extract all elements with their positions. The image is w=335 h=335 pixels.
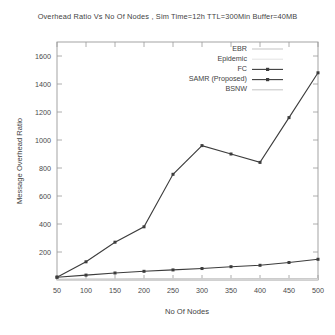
chart-figure: Overhead Ratio Vs No Of Nodes , Sim Time… — [0, 0, 335, 335]
series-marker — [172, 268, 175, 271]
series-marker — [288, 261, 291, 264]
series-marker — [317, 258, 320, 261]
x-tick-label: 400 — [254, 286, 266, 295]
y-tick-label: 1600 — [35, 52, 51, 61]
legend-sample-marker — [266, 78, 269, 81]
x-tick-label: 100 — [80, 286, 92, 295]
x-tick-label: 150 — [109, 286, 121, 295]
legend-label: Epidemic — [217, 54, 247, 63]
caption-strip — [22, 322, 272, 332]
legend-label: EBR — [232, 44, 247, 53]
series-marker — [143, 225, 146, 228]
legend-label: SAMR (Proposed) — [189, 74, 247, 83]
series-marker — [114, 272, 117, 275]
series-marker — [114, 241, 117, 244]
x-tick-label: 200 — [138, 286, 150, 295]
plot-area: 2004006008001000120014001600 50100150200… — [0, 0, 335, 335]
x-axis-title: No Of Nodes — [165, 307, 209, 316]
series-line — [57, 279, 318, 280]
y-tick-label: 600 — [39, 192, 51, 201]
series-marker — [56, 276, 59, 279]
series-marker — [288, 116, 291, 119]
y-tick-label: 400 — [39, 220, 51, 229]
series-marker — [259, 264, 262, 267]
series-marker — [143, 270, 146, 273]
y-axis-title: Message Overhead Ratio — [15, 118, 24, 204]
y-tick-label: 800 — [39, 164, 51, 173]
series-marker — [85, 260, 88, 263]
series-marker — [230, 265, 233, 268]
y-tick-label: 200 — [39, 248, 51, 257]
series-marker — [172, 173, 175, 176]
x-tick-label: 300 — [196, 286, 208, 295]
series-marker — [201, 267, 204, 270]
series-marker — [201, 144, 204, 147]
x-tick-label: 50 — [53, 286, 61, 295]
x-tick-label: 450 — [283, 286, 295, 295]
y-tick-label: 1200 — [35, 108, 51, 117]
legend-label: FC — [237, 64, 247, 73]
series-marker — [85, 274, 88, 277]
y-tick-label: 1400 — [35, 80, 51, 89]
x-tick-label: 350 — [225, 286, 237, 295]
legend-label: BSNW — [225, 84, 247, 93]
series-marker — [230, 153, 233, 156]
legend-sample-marker — [266, 68, 269, 71]
plot-frame — [57, 42, 318, 280]
y-tick-label: 1000 — [35, 136, 51, 145]
series-marker — [317, 71, 320, 74]
series-marker — [259, 161, 262, 164]
x-tick-label: 500 — [312, 286, 324, 295]
x-tick-label: 250 — [167, 286, 179, 295]
